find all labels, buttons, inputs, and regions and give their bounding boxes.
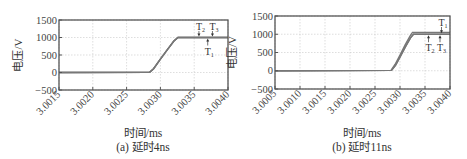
series-t1 bbox=[275, 32, 450, 70]
annotation-t2: T2 bbox=[196, 21, 205, 37]
y-tick-label: 500 bbox=[41, 50, 57, 61]
annotation-t2: T2 bbox=[426, 35, 435, 54]
y-tick-label: 1500 bbox=[36, 15, 57, 26]
y-axis-label: 电压/V bbox=[226, 36, 238, 69]
annotation-t1: T1 bbox=[205, 39, 214, 58]
x-tick-label: 3.0035 bbox=[400, 88, 428, 116]
svg-text:T1: T1 bbox=[205, 46, 214, 58]
y-tick-label: 1000 bbox=[36, 32, 57, 43]
annotation-t1: T1 bbox=[439, 17, 448, 33]
x-tick-label: 3.0040 bbox=[425, 88, 453, 116]
x-tick-label: 3.0020 bbox=[325, 88, 353, 116]
x-tick-label: 3.0030 bbox=[136, 89, 164, 117]
y-tick-label: 1500 bbox=[252, 11, 273, 22]
x-tick-label: 3.0025 bbox=[350, 88, 378, 116]
y-tick-label: 1000 bbox=[252, 29, 273, 40]
y-tick-label: 0 bbox=[52, 67, 57, 78]
svg-text:T2: T2 bbox=[196, 21, 205, 33]
x-tick-label: 3.0010 bbox=[275, 88, 303, 116]
x-tick-label: 3.0020 bbox=[68, 89, 96, 117]
y-tick-label: 0 bbox=[268, 65, 273, 76]
svg-text:T2: T2 bbox=[426, 42, 435, 54]
caption-a: (a) 延时4ns bbox=[93, 138, 193, 154]
chart-panel-a: 150010005000−5003.00153.00203.00253.0030… bbox=[12, 15, 231, 117]
chart-panel-b: 150010005000−5003.00053.00103.00153.0020… bbox=[226, 11, 453, 116]
x-tick-label: 3.0030 bbox=[375, 88, 403, 116]
svg-text:T1: T1 bbox=[439, 17, 448, 29]
annotation-t3: T3 bbox=[437, 35, 446, 54]
y-axis-label: 电压/V bbox=[12, 38, 24, 71]
x-tick-label: 3.0035 bbox=[169, 89, 197, 117]
annotation-t3: T3 bbox=[209, 21, 218, 37]
y-tick-label: 500 bbox=[257, 47, 273, 58]
x-tick-label: 3.0040 bbox=[203, 89, 231, 117]
svg-text:T3: T3 bbox=[209, 21, 218, 33]
x-tick-label: 3.0025 bbox=[102, 89, 130, 117]
x-tick-label: 3.0015 bbox=[300, 88, 328, 116]
caption-b: (b) 延时11ns bbox=[312, 138, 412, 154]
svg-text:T3: T3 bbox=[437, 42, 446, 54]
